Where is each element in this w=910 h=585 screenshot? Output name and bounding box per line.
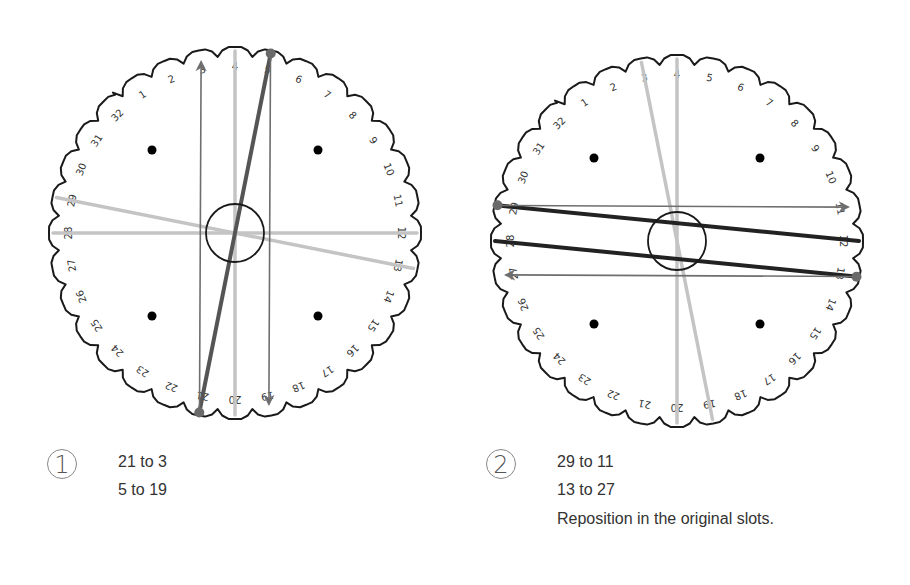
guide-dot	[756, 154, 765, 163]
instruction-1-line-1: 21 to 3	[118, 453, 167, 471]
guide-dot	[590, 154, 599, 163]
thread-endpoint	[194, 408, 204, 418]
instruction-2-line-2: 13 to 27	[557, 481, 615, 499]
instruction-2-line-1: 29 to 11	[557, 453, 614, 471]
step-number-2: 2	[486, 449, 516, 479]
guide-dot	[314, 312, 323, 321]
guide-dot	[314, 146, 323, 155]
thread-endpoint	[493, 200, 503, 210]
guide-dot	[590, 320, 599, 329]
instruction-2-line-3: Reposition in the original slots.	[557, 510, 774, 528]
disk-2: 1234567891011121314151617181920212223242…	[491, 55, 863, 427]
guide-dot	[756, 320, 765, 329]
step-number-1: 1	[47, 449, 77, 479]
guide-dot	[148, 146, 157, 155]
instruction-1-line-2: 5 to 19	[118, 481, 167, 499]
disk-1: 1234567891011121314151617181920212223242…	[49, 47, 421, 419]
guide-dot	[148, 312, 157, 321]
thread-endpoint	[852, 272, 862, 282]
thread-endpoint	[266, 49, 276, 59]
